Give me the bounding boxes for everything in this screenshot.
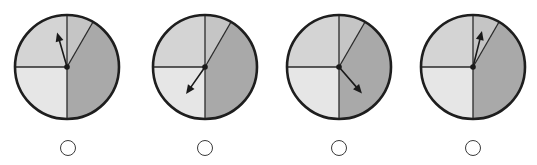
spinner-4 bbox=[421, 15, 525, 119]
spinner-2 bbox=[153, 15, 257, 119]
answer-radio-4[interactable] bbox=[465, 140, 481, 156]
answer-radio-3[interactable] bbox=[331, 140, 347, 156]
spinner-1 bbox=[15, 15, 119, 119]
answer-radio-2[interactable] bbox=[197, 140, 213, 156]
spinner-choice-question bbox=[0, 0, 537, 165]
spinner-3 bbox=[287, 15, 391, 119]
answer-radio-1[interactable] bbox=[60, 140, 76, 156]
